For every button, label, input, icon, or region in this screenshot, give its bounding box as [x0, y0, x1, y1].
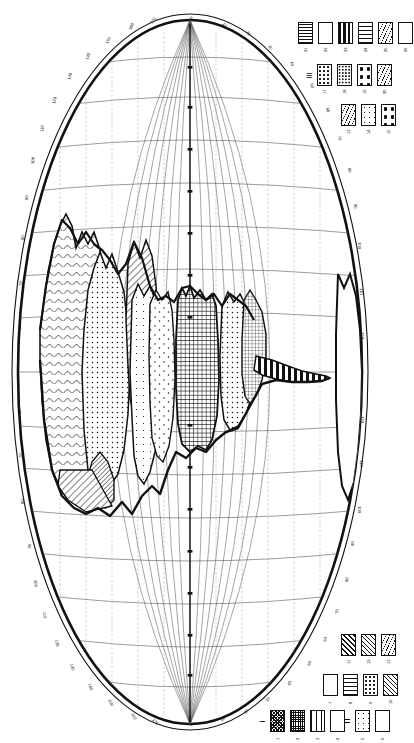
legend-number: 11 — [347, 657, 351, 664]
legend-item[interactable]: 22 — [317, 22, 334, 52]
legend-swatch-17 — [317, 64, 332, 86]
legend-swatch-8 — [343, 674, 358, 696]
legend-number: 8 — [349, 697, 353, 704]
region-dot-column-2 — [149, 290, 175, 462]
legend-item[interactable]: 18 — [336, 64, 353, 94]
legend-swatch-24 — [358, 22, 373, 44]
legend-number: 23 — [344, 45, 348, 52]
svg-text:100: 100 — [357, 506, 362, 514]
legend-item[interactable]: 17 — [316, 64, 333, 94]
legend-item[interactable]: 13 — [340, 104, 357, 134]
legend-group-bottom-2: 7 8 9 10 — [322, 674, 399, 704]
svg-text:90: 90 — [27, 544, 32, 550]
svg-text:90: 90 — [353, 204, 358, 210]
legend-number: 22 — [324, 45, 328, 52]
legend-swatch-18 — [337, 64, 352, 86]
legend-swatch-3 — [310, 710, 325, 732]
legend-swatch-26 — [398, 22, 413, 44]
legend-group-bottom-1: 11 12 13 — [340, 634, 397, 664]
legend-swatch-11 — [341, 634, 356, 656]
svg-text:70: 70 — [18, 453, 23, 458]
legend-number: 12 — [367, 657, 371, 664]
legend-number: 15 — [387, 127, 391, 134]
legend-swatch-15 — [381, 104, 396, 126]
legend-item[interactable]: 5 — [354, 710, 371, 740]
legend-number: 1 — [276, 733, 280, 740]
legend-number: 26 — [404, 45, 408, 52]
legend-item[interactable]: 14 — [360, 104, 377, 134]
legend-number: 21 — [304, 45, 308, 52]
legend-number: 10 — [389, 697, 393, 704]
legend-swatch-19 — [357, 64, 372, 86]
legend-group-top-3: 13 14 15 — [340, 104, 397, 134]
legend-number: 4 — [336, 733, 340, 740]
legend-item[interactable]: 21 — [297, 22, 314, 52]
legend-item[interactable]: 15 — [380, 104, 397, 134]
region-crosshatch-center — [176, 286, 219, 452]
legend-item[interactable]: 19 — [356, 64, 373, 94]
legend-item[interactable]: 1 — [269, 710, 286, 740]
svg-text:120: 120 — [360, 416, 365, 424]
legend-number: 25 — [384, 45, 388, 52]
legend-item[interactable]: 26 — [397, 22, 414, 52]
legend-group-top-1: 21 22 23 24 25 26 — [292, 22, 414, 52]
legend-operator-identity: ≡ — [305, 64, 313, 86]
svg-text:60: 60 — [17, 325, 22, 330]
legend-item[interactable]: 13 — [380, 634, 397, 664]
svg-text:80: 80 — [20, 499, 25, 504]
legend-operator-minus: − — [258, 710, 266, 732]
legend-number: 13 — [387, 657, 391, 664]
legend-number: 9 — [369, 697, 373, 704]
legend-swatch-1 — [270, 710, 285, 732]
legend-item[interactable]: 23 — [337, 22, 354, 52]
svg-text:80: 80 — [20, 235, 25, 240]
legend-swatch-10 — [383, 674, 398, 696]
legend-swatch-25 — [378, 22, 393, 44]
legend-swatch-9 — [363, 674, 378, 696]
legend-item[interactable]: 20 — [376, 64, 393, 94]
svg-text:110: 110 — [359, 288, 364, 295]
legend-swatch-13 — [341, 104, 356, 126]
legend-number: 6 — [381, 733, 385, 740]
legend-number: 20 — [383, 87, 387, 94]
region-stipple-left — [82, 252, 130, 486]
legend-group-top-2: ≡ 17 18 19 20 — [305, 64, 393, 94]
legend-item[interactable]: 7 — [322, 674, 339, 704]
svg-text:100: 100 — [30, 156, 36, 164]
legend-number: 7 — [329, 697, 333, 704]
legend-swatch-6 — [375, 710, 390, 732]
legend-item[interactable]: 6 — [374, 710, 391, 740]
legend-swatch-5 — [355, 710, 370, 732]
legend-swatch-23 — [338, 22, 353, 44]
legend-swatch-22 — [318, 22, 333, 44]
legend-item[interactable]: 10 — [382, 674, 399, 704]
legend-swatch-12 — [361, 634, 376, 656]
legend-number: 19 — [363, 87, 367, 94]
legend-operator — [292, 22, 294, 44]
legend-number: 17 — [323, 87, 327, 94]
legend-item[interactable]: 3 — [309, 710, 326, 740]
legend-swatch-20 — [377, 64, 392, 86]
legend-group-bottom-3: − 1 2 3 4 — [258, 710, 346, 740]
legend-number: 14 — [367, 127, 371, 134]
legend-item[interactable]: 8 — [342, 674, 359, 704]
legend-number: 2 — [296, 733, 300, 740]
legend-operator-equals: = — [343, 710, 351, 732]
legend-item[interactable]: 25 — [377, 22, 394, 52]
svg-text:70: 70 — [18, 281, 23, 286]
legend-item[interactable]: 12 — [360, 634, 377, 664]
legend-swatch-7 — [323, 674, 338, 696]
legend-item[interactable]: 11 — [340, 634, 357, 664]
svg-text:110: 110 — [359, 460, 364, 467]
legend-group-bottom-4: = 5 6 — [343, 710, 391, 740]
svg-text:90: 90 — [24, 195, 29, 201]
legend-item[interactable]: 2 — [289, 710, 306, 740]
svg-text:100: 100 — [357, 242, 362, 250]
legend-item[interactable]: 9 — [362, 674, 379, 704]
legend-number: 5 — [361, 733, 365, 740]
svg-text:120: 120 — [360, 332, 365, 340]
legend-number: 13 — [347, 127, 351, 134]
legend-swatch-13b — [381, 634, 396, 656]
legend-item[interactable]: 24 — [357, 22, 374, 52]
